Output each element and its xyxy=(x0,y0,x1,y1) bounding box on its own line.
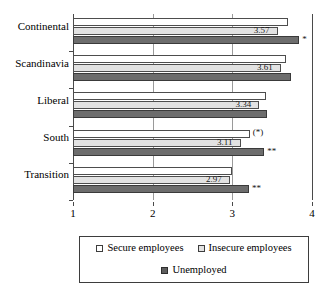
bar xyxy=(73,148,264,156)
plot-area: *3.573.613.34(*)**3.11**2.97 xyxy=(73,14,313,200)
value-axis-tick-label: 2 xyxy=(143,207,163,220)
bar xyxy=(73,73,291,81)
category-axis-tick xyxy=(69,200,73,201)
bar-value-label: 2.97 xyxy=(206,174,222,184)
chart-legend: Secure employees Insecure employees Unem… xyxy=(79,236,309,283)
bar-value-label: 3.61 xyxy=(257,62,273,72)
bar-value-label: 3.57 xyxy=(254,25,270,35)
bar xyxy=(73,64,281,72)
legend-label-unemployed: Unemployed xyxy=(172,264,226,276)
category-label-continental: Continental xyxy=(1,20,69,32)
bar-group: **2.97 xyxy=(73,163,313,200)
value-axis-tick-label: 1 xyxy=(63,207,83,220)
bar xyxy=(73,27,278,35)
legend-item-secure-employees: Secure employees xyxy=(96,242,183,254)
legend-row-bottom: Unemployed xyxy=(80,259,308,281)
significance-marker: (*) xyxy=(253,128,264,137)
bar xyxy=(73,110,267,118)
value-axis-tick-label: 4 xyxy=(302,207,322,220)
significance-marker: ** xyxy=(252,184,261,193)
value-axis-tick xyxy=(153,202,154,206)
legend-swatch-insecure-employees xyxy=(198,245,205,252)
bar-group: (*)**3.11 xyxy=(73,126,313,163)
value-axis-tick xyxy=(73,202,74,206)
legend-label-secure-employees: Secure employees xyxy=(107,242,183,254)
bar-group: *3.57 xyxy=(73,14,313,51)
category-label-liberal: Liberal xyxy=(1,94,69,106)
legend-item-insecure-employees: Insecure employees xyxy=(198,242,292,254)
significance-marker: * xyxy=(302,35,307,44)
category-label-transition: Transition xyxy=(1,168,69,180)
legend-row-top: Secure employees Insecure employees xyxy=(80,237,308,259)
bar-value-label: 3.11 xyxy=(217,137,232,147)
significance-marker: ** xyxy=(267,147,276,156)
legend-label-insecure-employees: Insecure employees xyxy=(209,242,292,254)
category-label-scandinavia: Scandinavia xyxy=(1,57,69,69)
value-axis-tick-label: 3 xyxy=(222,207,242,220)
bar xyxy=(73,185,249,193)
bar xyxy=(73,55,286,63)
category-label-south: South xyxy=(1,131,69,143)
category-axis-labels: ContinentalScandinaviaLiberalSouthTransi… xyxy=(0,14,69,200)
bar-group: 3.61 xyxy=(73,51,313,88)
legend-swatch-unemployed xyxy=(161,267,168,274)
bar-chart-figure: ContinentalScandinaviaLiberalSouthTransi… xyxy=(0,0,331,295)
value-axis-tick xyxy=(312,202,313,206)
bar xyxy=(73,101,259,109)
value-axis-labels: 1234 xyxy=(0,202,331,220)
bar xyxy=(73,139,241,147)
bar xyxy=(73,36,299,44)
bar-group: 3.34 xyxy=(73,88,313,125)
value-axis-tick xyxy=(232,202,233,206)
legend-swatch-secure-employees xyxy=(96,245,103,252)
legend-item-unemployed: Unemployed xyxy=(161,264,226,276)
bar-value-label: 3.34 xyxy=(235,99,251,109)
